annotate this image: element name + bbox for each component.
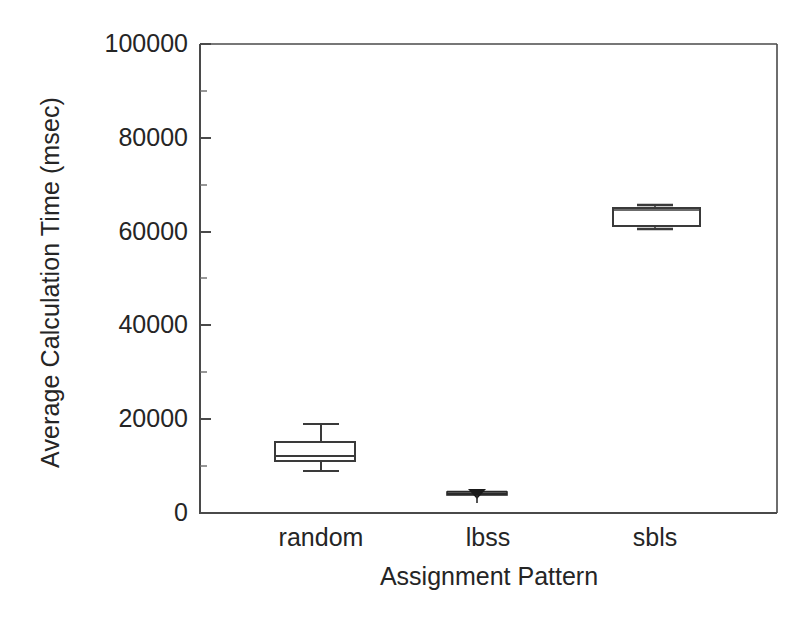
boxplot-figure: Average Calculation Time (msec) Assignme… <box>0 0 804 635</box>
boxplot-sbls <box>613 205 700 229</box>
boxplot-lbss <box>447 489 507 503</box>
random-box <box>275 442 355 461</box>
boxplot-random <box>275 424 355 471</box>
plot-canvas <box>0 0 804 635</box>
y-minor-ticks <box>200 91 207 466</box>
